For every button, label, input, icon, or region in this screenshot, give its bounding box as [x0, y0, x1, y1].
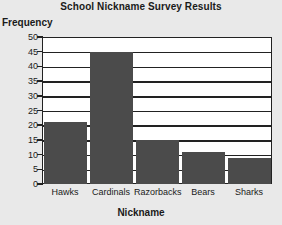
chart-title: School Nickname Survey Results — [0, 1, 282, 12]
bar-hawks — [44, 122, 87, 184]
bar-sharks — [228, 158, 271, 184]
x-axis-tick-label: Hawks — [42, 187, 88, 197]
y-axis-tick-labels: 05101520253035404550 — [8, 37, 38, 184]
bar-chart-figure: School Nickname Survey Results Frequency… — [0, 0, 282, 225]
y-axis-tick-label: 0 — [12, 180, 38, 189]
x-axis-tick-label: Sharks — [226, 187, 272, 197]
y-axis-tick-label: 35 — [12, 77, 38, 86]
bar-bears — [182, 152, 225, 184]
y-axis-tick-label: 5 — [12, 165, 38, 174]
x-axis-tick-label: Cardinals — [88, 187, 134, 197]
y-axis-tick-label: 10 — [12, 150, 38, 159]
x-axis-tick-label: Bears — [180, 187, 226, 197]
x-axis-tick-label: Razorbacks — [134, 187, 180, 197]
y-axis-title: Frequency — [2, 17, 53, 28]
bar-cardinals — [90, 52, 133, 184]
bar-razorbacks — [136, 140, 179, 184]
x-axis-title: Nickname — [0, 207, 282, 218]
y-axis-tick-label: 25 — [12, 106, 38, 115]
y-axis-tick-label: 50 — [12, 33, 38, 42]
bars-layer — [42, 37, 272, 184]
y-axis-tick-label: 30 — [12, 91, 38, 100]
y-axis-tick-label: 15 — [12, 135, 38, 144]
y-axis-tick-label: 40 — [12, 62, 38, 71]
y-axis-tick-label: 20 — [12, 121, 38, 130]
y-axis-tick-label: 45 — [12, 47, 38, 56]
x-axis-tick-labels: HawksCardinalsRazorbacksBearsSharks — [42, 187, 272, 201]
